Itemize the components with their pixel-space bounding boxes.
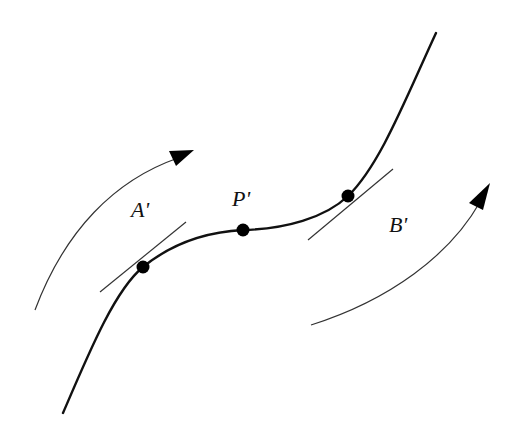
tangent-line-a (100, 222, 186, 292)
main-curve (63, 33, 436, 413)
label-b: B' (389, 212, 407, 237)
point-b (342, 190, 355, 203)
point-p (237, 224, 250, 237)
label-p: P' (231, 186, 250, 211)
left-arrowhead-icon (169, 150, 194, 166)
tangent-line-b (308, 169, 393, 240)
label-a: A' (129, 197, 149, 222)
diagram-svg: A' P' B' (0, 0, 516, 443)
point-a (137, 261, 150, 274)
diagram-canvas: A' P' B' (0, 0, 516, 443)
right-arrowhead-icon (469, 183, 490, 210)
